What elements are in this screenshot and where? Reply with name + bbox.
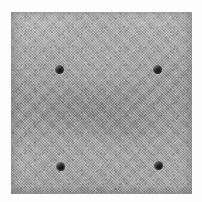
drill-hole-bottom-right [154,161,163,170]
drill-hole-bottom-left [56,162,65,171]
drill-hole-top-left [55,65,64,74]
slab-edge-shading [11,12,192,194]
concrete-slab [11,12,192,194]
drill-hole-top-right [153,65,162,74]
image-canvas [0,0,202,202]
